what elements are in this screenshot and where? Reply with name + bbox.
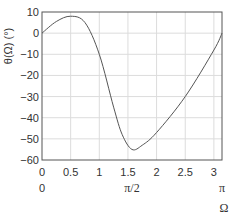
phase-curve (42, 16, 222, 150)
x-secondary-tick-label: π/2 (124, 181, 139, 195)
x-axis-secondary-ticks: 0π/2π (39, 181, 225, 195)
plot-frame (42, 12, 222, 160)
grid-lines (42, 12, 222, 160)
x-tick-label: 0.5 (63, 166, 78, 178)
x-secondary-tick-label: 0 (39, 182, 45, 194)
x-tick-label: 0 (39, 166, 45, 178)
x-secondary-tick-label: π (219, 181, 225, 195)
y-axis-label: θ(Ω) (°) (2, 28, 14, 64)
x-axis-ticks: 00.511.522.53 (39, 166, 217, 178)
y-axis-ticks: 100−10−20−30−40−50−60 (20, 6, 39, 166)
y-tick-label: 0 (33, 27, 39, 39)
y-tick-label: −30 (20, 91, 39, 103)
x-tick-label: 1 (96, 166, 102, 178)
y-tick-label: −50 (20, 133, 39, 145)
y-tick-label: −10 (20, 48, 39, 60)
x-axis-label: Ω (220, 201, 229, 215)
phase-chart: 100−10−20−30−40−50−60 00.511.522.53 0π/2… (0, 0, 237, 217)
y-tick-label: −20 (20, 69, 39, 81)
x-tick-label: 2.5 (178, 166, 193, 178)
x-tick-label: 1.5 (120, 166, 135, 178)
y-tick-label: −40 (20, 112, 39, 124)
x-tick-label: 3 (211, 166, 217, 178)
x-tick-label: 2 (154, 166, 160, 178)
y-tick-label: −60 (20, 154, 39, 166)
y-tick-label: 10 (27, 6, 39, 18)
